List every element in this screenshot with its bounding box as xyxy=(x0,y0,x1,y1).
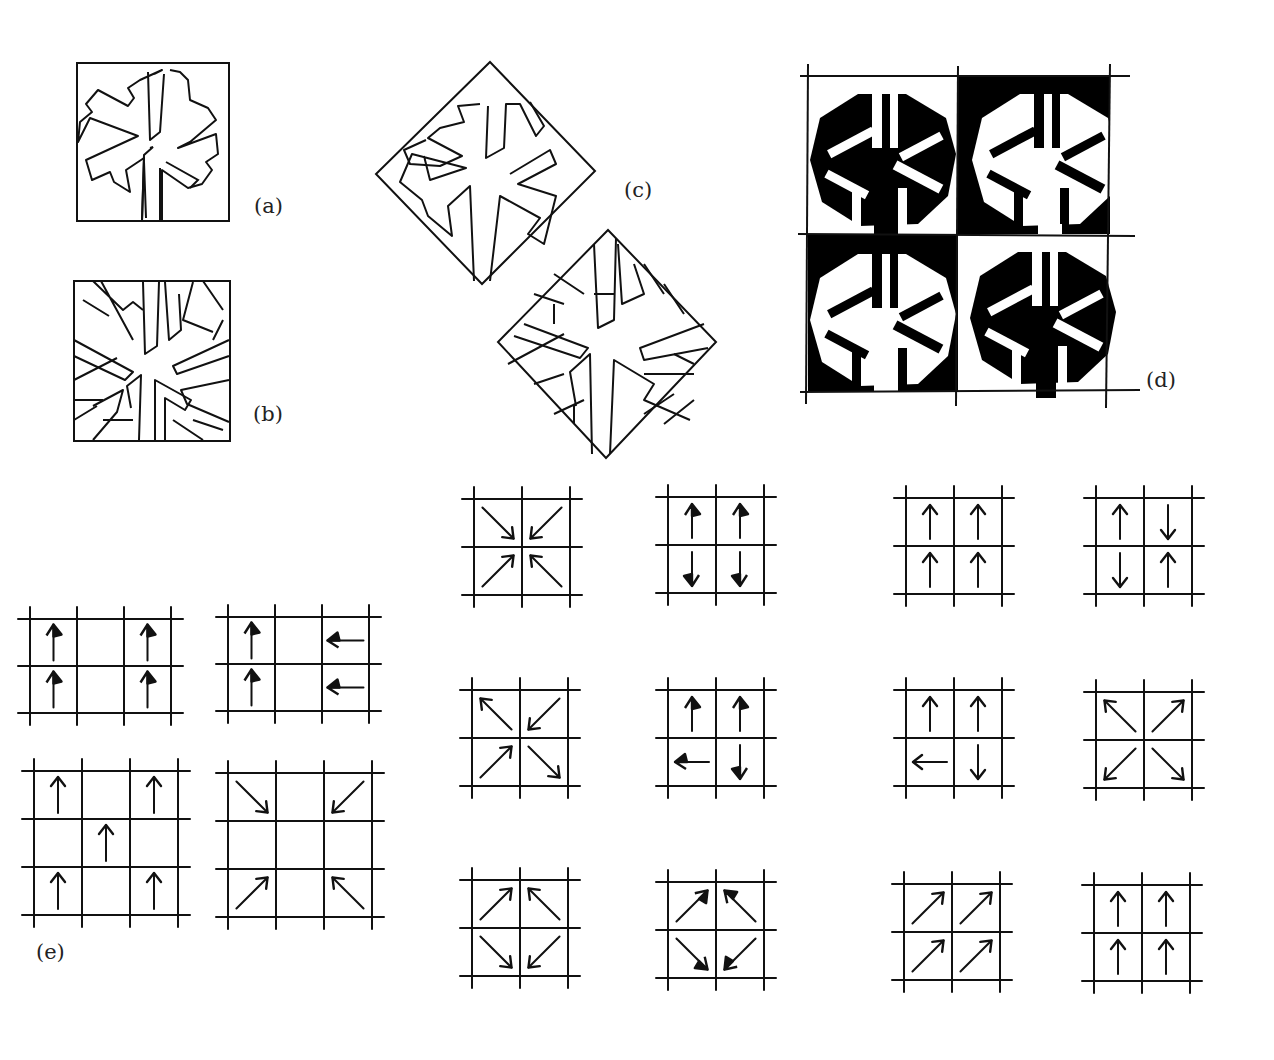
arrow-down-icon xyxy=(684,552,699,586)
arrow-up-icon xyxy=(685,504,700,538)
arrow-up-icon xyxy=(971,505,985,539)
arrow-grid-r1 xyxy=(894,486,1014,606)
arrow-up-left-icon xyxy=(719,885,761,927)
arrow-up-right-icon xyxy=(907,887,948,928)
arrow-up-right-icon xyxy=(477,550,518,591)
arrow-up-right-icon xyxy=(671,885,713,927)
arrow-up-icon xyxy=(923,553,937,587)
snowflake-outline-tile xyxy=(76,62,230,222)
arrow-up-right-icon xyxy=(475,883,516,924)
panel-a: (a) xyxy=(76,62,230,222)
arrow-down-right-icon xyxy=(1147,743,1188,784)
arrow-up-icon xyxy=(141,672,156,708)
panel-label-d: (d) xyxy=(1146,368,1176,392)
arrow-up-left-icon xyxy=(523,883,564,924)
arrow-grid-r3 xyxy=(894,678,1014,798)
arrow-down-icon xyxy=(732,552,747,586)
arrow-down-left-icon xyxy=(525,502,566,543)
arrow-up-icon xyxy=(51,777,65,813)
arrow-down-left-icon xyxy=(327,776,368,817)
arrow-up-left-icon xyxy=(327,872,368,913)
arrow-up-icon xyxy=(1159,940,1173,974)
panel-label-b: (b) xyxy=(253,402,283,426)
arrow-down-left-icon xyxy=(719,933,761,975)
arrow-left-icon xyxy=(913,755,947,769)
arrow-down-right-icon xyxy=(671,933,713,975)
arrow-up-right-icon xyxy=(907,935,948,976)
arrow-up-right-icon xyxy=(475,741,516,782)
arrow-down-left-icon xyxy=(523,931,564,972)
arrow-down-icon xyxy=(732,745,747,779)
arrow-up-icon xyxy=(147,873,161,909)
arrow-up-icon xyxy=(971,553,985,587)
arrow-grid-m5 xyxy=(460,868,580,988)
arrow-up-icon xyxy=(733,504,748,538)
arrow-grid-m2 xyxy=(656,485,776,605)
arrow-grid-r4 xyxy=(1084,680,1204,800)
arrow-right-icon xyxy=(245,623,260,659)
arrow-right-icon xyxy=(1111,940,1125,974)
snowflake-checkerboard xyxy=(790,60,1190,410)
arrow-down-right-icon xyxy=(477,502,518,543)
arrow-right-icon xyxy=(733,697,748,731)
arrow-grid-r5 xyxy=(892,872,1012,992)
arrow-grid-e-2 xyxy=(216,605,381,723)
arrow-up-right-icon xyxy=(955,935,996,976)
arrow-up-right-icon xyxy=(955,887,996,928)
panel-c: (c) xyxy=(366,54,746,454)
arrow-up-right-icon xyxy=(231,872,272,913)
arrow-right-icon xyxy=(971,697,985,731)
arrow-grid-m3 xyxy=(460,678,580,798)
panel-label-c: (c) xyxy=(624,178,652,202)
panel-b: (b) xyxy=(73,280,231,442)
arrow-down-right-icon xyxy=(523,741,564,782)
arrow-up-icon xyxy=(1161,553,1175,587)
arrow-grid-r2 xyxy=(1084,486,1204,606)
arrow-up-icon xyxy=(141,625,156,661)
panel-e: (e) xyxy=(20,595,410,985)
arrow-up-right-icon xyxy=(1147,695,1188,736)
arrow-left-icon xyxy=(328,633,364,648)
arrow-down-left-icon xyxy=(1099,743,1140,784)
arrow-down-left-icon xyxy=(523,693,564,734)
arrow-grid-m1 xyxy=(462,487,582,607)
arrow-left-icon xyxy=(328,680,364,695)
arrow-up-icon xyxy=(47,625,62,661)
arrow-down-icon xyxy=(971,745,985,779)
arrow-grid-e-4 xyxy=(216,761,384,929)
arrow-up-icon xyxy=(1113,505,1127,539)
arrow-right-icon xyxy=(1159,892,1173,926)
snowflake-subdivided-tile xyxy=(73,280,231,442)
snowflake-subdivided-diamond xyxy=(494,224,724,464)
arrow-grid-r6 xyxy=(1082,873,1202,993)
arrow-down-right-icon xyxy=(475,931,516,972)
arrow-grid-e-3 xyxy=(22,759,190,927)
arrow-grid-e-1 xyxy=(18,607,183,725)
arrow-up-left-icon xyxy=(525,550,566,591)
arrow-up-left-icon xyxy=(1099,695,1140,736)
panel-label-a: (a) xyxy=(254,194,283,218)
arrow-left-icon xyxy=(675,754,709,769)
arrow-up-icon xyxy=(923,505,937,539)
arrow-up-icon xyxy=(147,777,161,813)
arrow-down-icon xyxy=(1161,505,1175,539)
arrow-up-icon xyxy=(47,672,62,708)
arrow-down-icon xyxy=(1113,553,1127,587)
panel-d: (d) xyxy=(790,60,1190,410)
arrow-up-icon xyxy=(51,873,65,909)
arrow-right-icon xyxy=(245,670,260,706)
arrow-up-icon xyxy=(685,697,700,731)
arrow-up-icon xyxy=(99,825,113,861)
arrow-up-left-icon xyxy=(475,693,516,734)
panel-label-e: (e) xyxy=(36,940,65,964)
arrow-grid-m4 xyxy=(656,678,776,798)
arrow-up-icon xyxy=(1111,892,1125,926)
arrow-up-icon xyxy=(923,697,937,731)
arrow-down-right-icon xyxy=(231,776,272,817)
arrow-grid-group-e xyxy=(20,595,410,935)
arrow-grid-m6 xyxy=(656,870,776,990)
